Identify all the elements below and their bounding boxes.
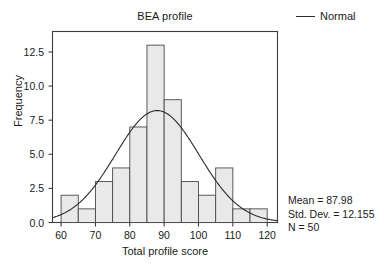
x-axis-tick-label: 90 — [158, 229, 170, 241]
y-axis-title: Frequency — [12, 61, 24, 141]
y-axis-tick-label: 5.0 — [8, 148, 44, 160]
histogram-bar — [250, 209, 267, 223]
x-axis-title: Total profile score — [52, 245, 278, 257]
x-axis-tick-label: 70 — [90, 229, 102, 241]
stat-n: N = 50 — [288, 221, 375, 235]
histogram-bar — [147, 45, 164, 222]
x-axis-tick-label: 120 — [258, 229, 276, 241]
x-axis-tick-label: 100 — [190, 229, 208, 241]
histogram-bar — [95, 182, 112, 223]
y-axis-tick-label: 2.5 — [8, 182, 44, 194]
stat-std-dev: Std. Dev. = 12.155 — [288, 208, 375, 222]
histogram-bar — [233, 209, 250, 223]
y-axis-tick-label: 12.5 — [8, 46, 44, 58]
histogram-bar — [113, 168, 130, 223]
histogram-bar — [216, 168, 233, 223]
x-axis-tick-label: 60 — [55, 229, 67, 241]
y-axis-tick-label: 10.0 — [8, 80, 44, 92]
histogram-figure: BEA profile Normal Frequency Total profi… — [0, 0, 384, 268]
x-axis-tick-label: 80 — [124, 229, 136, 241]
histogram-bar — [130, 127, 147, 223]
stat-mean: Mean = 87.98 — [288, 194, 375, 208]
histogram-bar — [78, 209, 95, 223]
y-axis-tick-label: 7.5 — [8, 114, 44, 126]
histogram-bar — [181, 182, 198, 223]
statistics-annotation: Mean = 87.98 Std. Dev. = 12.155 N = 50 — [288, 194, 375, 235]
x-axis-tick-label: 110 — [224, 229, 241, 241]
histogram-bar — [198, 195, 215, 222]
y-axis-tick-label: 0.0 — [8, 217, 44, 229]
histogram-bar — [61, 195, 78, 222]
